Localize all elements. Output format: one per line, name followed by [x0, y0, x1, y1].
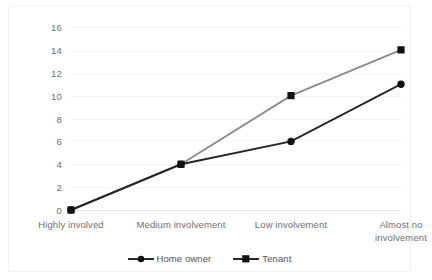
legend-swatch-square-marker-icon — [233, 254, 259, 264]
x-axis-tick-label: Medium involvement — [135, 219, 227, 232]
legend-item-tenant[interactable]: Tenant — [233, 253, 291, 264]
legend-item-home-owner[interactable]: Home owner — [128, 253, 212, 264]
x-axis-tick-label: Almost no involvement — [355, 219, 432, 244]
series-line-tenant — [71, 50, 401, 210]
data-point-marker — [177, 161, 184, 168]
legend-label: Home owner — [157, 253, 212, 264]
data-point-marker — [397, 46, 404, 53]
data-point-marker — [67, 206, 74, 213]
legend-swatch-circle-marker-icon — [128, 254, 154, 264]
y-axis-tick-label: 2 — [57, 182, 62, 193]
y-axis-tick-label: 12 — [51, 67, 62, 78]
series-layer — [71, 27, 401, 210]
y-axis-tick-label: 10 — [51, 90, 62, 101]
chart-frame: 0246810121416 Highly involvedMedium invo… — [8, 6, 411, 272]
plot-area: 0246810121416 Highly involvedMedium invo… — [71, 27, 401, 210]
data-point-marker — [397, 80, 404, 87]
legend-label: Tenant — [262, 253, 291, 264]
data-point-marker — [287, 92, 294, 99]
y-axis-tick-label: 16 — [51, 22, 62, 33]
y-axis-tick-label: 8 — [57, 113, 62, 124]
x-axis-tick-label: Highly involved — [25, 219, 117, 232]
y-axis-tick-label: 0 — [57, 205, 62, 216]
series-line-home-owner — [71, 84, 401, 210]
data-point-marker — [287, 138, 294, 145]
gridline — [71, 210, 401, 211]
y-axis-tick-label: 14 — [51, 44, 62, 55]
chart-legend: Home ownerTenant — [9, 253, 410, 264]
x-axis-tick-label: Low involvement — [245, 219, 337, 232]
y-axis-tick-label: 4 — [57, 159, 62, 170]
y-axis-tick-label: 6 — [57, 136, 62, 147]
